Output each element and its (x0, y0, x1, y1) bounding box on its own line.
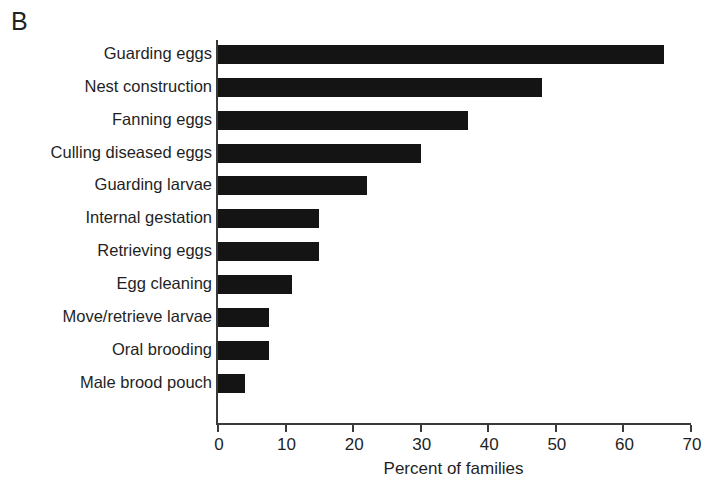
x-axis-tick-label: 10 (257, 434, 317, 455)
bar (218, 275, 292, 294)
bar-row: Retrieving eggs (0, 242, 707, 261)
x-axis-tick-label: 0 (189, 434, 249, 455)
bar-row: Culling diseased eggs (0, 144, 707, 163)
bar-category-label: Retrieving eggs (0, 240, 212, 261)
x-axis-tick-label: 50 (527, 434, 587, 455)
bar-category-label: Oral brooding (0, 339, 212, 360)
x-axis-tick (622, 425, 624, 432)
bar (218, 209, 319, 228)
x-axis-tick (690, 425, 692, 432)
bar-category-label: Male brood pouch (0, 372, 212, 393)
bar (218, 308, 269, 327)
x-axis-tick (487, 425, 489, 432)
bar (218, 111, 468, 130)
x-axis-tick-label: 30 (392, 434, 452, 455)
x-axis-line (216, 423, 691, 425)
bar (218, 78, 542, 97)
bar (218, 45, 664, 64)
bar-category-label: Culling diseased eggs (0, 142, 212, 163)
y-axis-line (216, 40, 218, 424)
bar-row: Oral brooding (0, 341, 707, 360)
bar (218, 144, 421, 163)
x-axis-tick (420, 425, 422, 432)
bar (218, 176, 367, 195)
bar-row: Guarding eggs (0, 45, 707, 64)
figure-panel-b: B Guarding eggsNest constructionFanning … (0, 0, 707, 484)
x-axis-tick (217, 425, 219, 432)
x-axis-tick-label: 70 (662, 434, 707, 455)
bar-chart-plot-area: Guarding eggsNest constructionFanning eg… (0, 0, 707, 484)
bar-row: Fanning eggs (0, 111, 707, 130)
x-axis-tick (555, 425, 557, 432)
bar (218, 341, 269, 360)
bar-category-label: Guarding eggs (0, 43, 212, 64)
bar-row: Male brood pouch (0, 374, 707, 393)
bar-row: Nest construction (0, 78, 707, 97)
x-axis-tick (352, 425, 354, 432)
bar-row: Guarding larvae (0, 176, 707, 195)
bar-category-label: Guarding larvae (0, 174, 212, 195)
bar (218, 242, 319, 261)
x-axis-title: Percent of families (216, 458, 691, 479)
bar-row: Internal gestation (0, 209, 707, 228)
x-axis-tick-label: 20 (324, 434, 384, 455)
bar-category-label: Egg cleaning (0, 273, 212, 294)
bar-row: Move/retrieve larvae (0, 308, 707, 327)
bar-row: Egg cleaning (0, 275, 707, 294)
x-axis-tick (285, 425, 287, 432)
bar-category-label: Fanning eggs (0, 109, 212, 130)
x-axis-tick-label: 40 (459, 434, 519, 455)
bar-category-label: Internal gestation (0, 207, 212, 228)
bar-category-label: Nest construction (0, 76, 212, 97)
bar (218, 374, 245, 393)
x-axis-tick-label: 60 (594, 434, 654, 455)
bar-category-label: Move/retrieve larvae (0, 306, 212, 327)
